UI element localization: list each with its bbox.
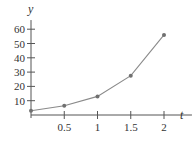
data-point [62,104,66,108]
axes [31,20,192,118]
line-chart: 102030405060 0.511.52 y t [0,0,195,145]
x-tick-label: 1.5 [124,121,138,133]
y-axis-ticks: 102030405060 [14,23,35,107]
y-tick-label: 50 [14,38,26,50]
data-point [129,74,133,78]
y-tick-label: 10 [14,95,26,107]
x-tick-label: 1 [95,121,101,133]
x-tick-label: 0.5 [57,121,71,133]
y-tick-label: 30 [14,66,26,78]
x-tick-label: 2 [161,121,167,133]
y-tick-label: 40 [14,52,26,64]
series-line [31,35,164,111]
data-point [29,109,33,113]
data-point [162,33,166,37]
y-axis-label: y [27,2,34,16]
y-tick-label: 60 [14,23,26,35]
data-point [96,94,100,98]
data-series [29,33,166,113]
y-tick-label: 20 [14,80,26,92]
x-axis-ticks: 0.511.52 [57,111,166,133]
